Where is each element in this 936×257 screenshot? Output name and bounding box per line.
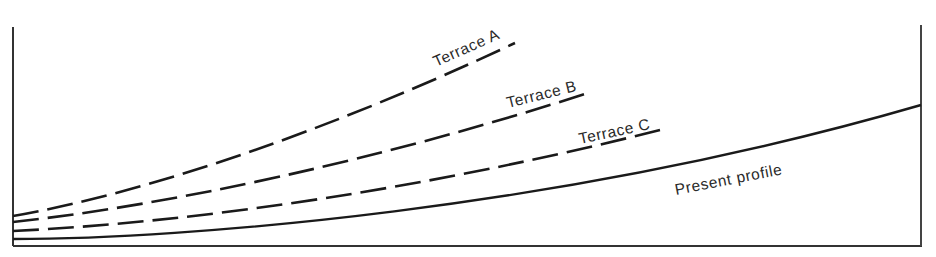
terrace-c-line bbox=[13, 130, 660, 231]
present-profile-label: Present profile bbox=[673, 160, 783, 197]
terrace-a-line bbox=[13, 43, 515, 216]
terrace-a-label: Terrace A bbox=[430, 25, 502, 69]
terrace-b-label: Terrace B bbox=[505, 77, 579, 111]
terrace-profile-diagram: Terrace A Terrace B Terrace C Present pr… bbox=[0, 0, 936, 257]
